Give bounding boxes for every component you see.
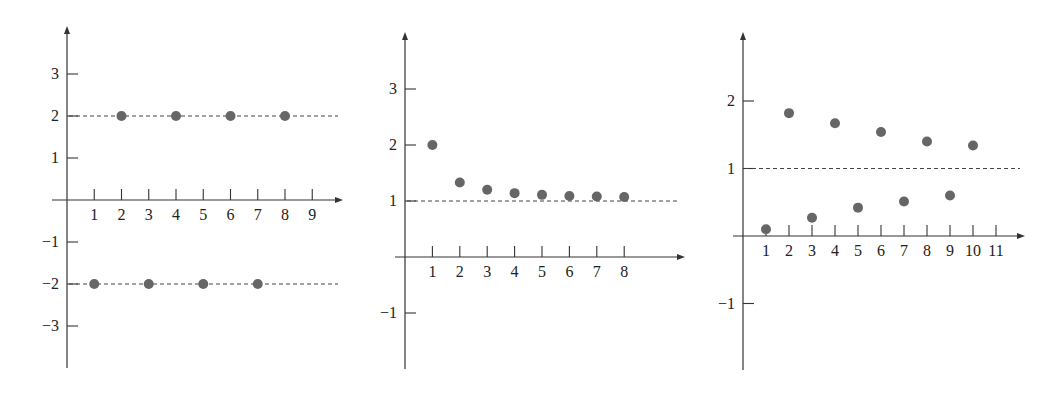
data-point xyxy=(784,108,794,118)
y-tick-label: −1 xyxy=(42,233,59,250)
x-tick-label: 5 xyxy=(538,263,546,280)
x-tick-label: 5 xyxy=(854,242,862,259)
data-point xyxy=(830,118,840,128)
data-point xyxy=(876,127,886,137)
x-tick-label: 3 xyxy=(483,263,491,280)
data-point xyxy=(253,279,263,289)
data-point xyxy=(853,203,863,213)
chart-alternating: 123456789321−1−2−3 xyxy=(42,26,343,368)
x-tick-label: 7 xyxy=(254,206,262,223)
x-tick-label: 2 xyxy=(118,206,126,223)
x-tick-label: 7 xyxy=(593,263,601,280)
data-point xyxy=(564,191,574,201)
data-point xyxy=(482,185,492,195)
y-axis-arrow-icon xyxy=(64,26,70,34)
data-point xyxy=(807,213,817,223)
x-tick-label: 2 xyxy=(785,242,793,259)
x-tick-label: 7 xyxy=(900,242,908,259)
x-tick-label: 6 xyxy=(565,263,573,280)
x-tick-label: 5 xyxy=(199,206,207,223)
x-tick-label: 8 xyxy=(620,263,628,280)
x-tick-label: 1 xyxy=(428,263,436,280)
x-tick-label: 3 xyxy=(808,242,816,259)
data-point xyxy=(968,141,978,151)
y-tick-label: −2 xyxy=(42,275,59,292)
data-point xyxy=(592,192,602,202)
data-point xyxy=(89,279,99,289)
x-axis-arrow-icon xyxy=(677,254,685,260)
x-tick-label: 6 xyxy=(877,242,885,259)
chart-decreasing: 12345678321−1 xyxy=(380,32,685,369)
x-tick-label: 1 xyxy=(762,242,770,259)
data-point xyxy=(455,178,465,188)
y-tick-label: 1 xyxy=(389,192,397,209)
y-tick-label: 2 xyxy=(389,136,397,153)
data-point xyxy=(510,188,520,198)
data-point xyxy=(144,279,154,289)
y-tick-label: 3 xyxy=(51,65,59,82)
chart-oscillating: 123456789101121−1 xyxy=(718,32,1025,370)
x-axis-arrow-icon xyxy=(1017,233,1025,239)
data-point xyxy=(761,224,771,234)
y-tick-label: 1 xyxy=(727,160,735,177)
x-tick-label: 9 xyxy=(308,206,316,223)
y-tick-label: 2 xyxy=(727,92,735,109)
chart-canvas: 123456789321−1−2−312345678321−1123456789… xyxy=(0,0,1057,394)
x-tick-label: 11 xyxy=(988,242,1003,259)
x-tick-label: 8 xyxy=(923,242,931,259)
x-tick-label: 4 xyxy=(831,242,839,259)
x-axis-arrow-icon xyxy=(335,197,343,203)
x-tick-label: 8 xyxy=(281,206,289,223)
x-tick-label: 6 xyxy=(227,206,235,223)
y-tick-label: 2 xyxy=(51,107,59,124)
x-tick-label: 9 xyxy=(946,242,954,259)
data-point xyxy=(226,111,236,121)
y-axis-arrow-icon xyxy=(740,32,746,40)
y-tick-label: 1 xyxy=(51,149,59,166)
y-tick-label: 3 xyxy=(389,80,397,97)
y-tick-label: −1 xyxy=(718,295,735,312)
data-point xyxy=(117,111,127,121)
data-point xyxy=(619,192,629,202)
y-tick-label: −1 xyxy=(380,304,397,321)
data-point xyxy=(171,111,181,121)
x-tick-label: 1 xyxy=(90,206,98,223)
data-point xyxy=(427,140,437,150)
data-point xyxy=(198,279,208,289)
data-point xyxy=(280,111,290,121)
data-point xyxy=(537,190,547,200)
data-point xyxy=(945,191,955,201)
x-tick-label: 4 xyxy=(172,206,180,223)
data-point xyxy=(899,197,909,207)
x-tick-label: 3 xyxy=(145,206,153,223)
y-tick-label: −3 xyxy=(42,317,59,334)
x-tick-label: 10 xyxy=(965,242,981,259)
y-axis-arrow-icon xyxy=(402,32,408,40)
x-tick-label: 4 xyxy=(511,263,519,280)
data-point xyxy=(922,137,932,147)
x-tick-label: 2 xyxy=(456,263,464,280)
